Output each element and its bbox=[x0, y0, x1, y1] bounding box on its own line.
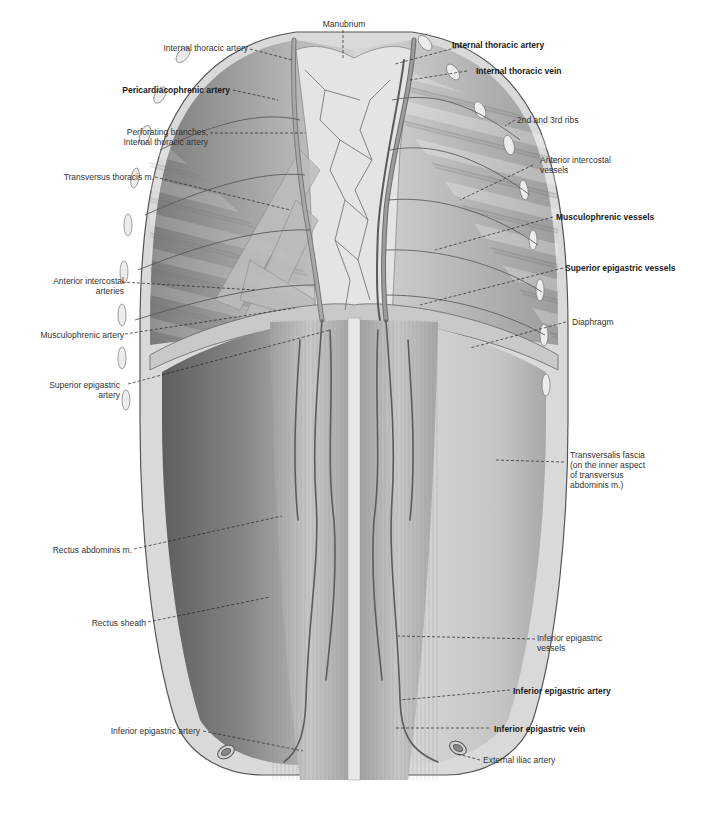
label-anterior-intercostal-arteries: Anterior intercostal arteries bbox=[20, 276, 124, 296]
label-perforating-branches: Perforating branches, Internal thoracic … bbox=[60, 127, 208, 147]
label-internal-thoracic-artery-left: Internal thoracic artery bbox=[100, 43, 248, 53]
label-superior-epigastric-artery: Superior epigastric artery bbox=[20, 380, 120, 400]
linea-alba bbox=[348, 318, 360, 780]
label-inferior-epigastric-artery-left: Inferior epigastric artery bbox=[60, 726, 200, 736]
label-manubrium: Manubrium bbox=[312, 19, 376, 29]
label-inferior-epigastric-artery-right: Inferior epigastric artery bbox=[513, 686, 611, 696]
label-musculophrenic-artery: Musculophrenic artery bbox=[10, 330, 124, 340]
label-anterior-intercostal-vessels: Anterior intercostal vessels bbox=[540, 155, 611, 175]
label-rectus-sheath: Rectus sheath bbox=[60, 618, 146, 628]
label-rectus-abdominis: Rectus abdominis m. bbox=[20, 545, 132, 555]
label-inferior-epigastric-vessels: Inferior epigastric vessels bbox=[537, 633, 602, 653]
label-superior-epigastric-vessels: Superior epigastric vessels bbox=[565, 263, 676, 273]
label-transversalis-fascia: Transversalis fascia (on the inner aspec… bbox=[570, 450, 645, 490]
label-pericardiacophrenic-artery: Pericardiacophrenic artery bbox=[60, 85, 230, 95]
label-diaphragm: Diaphragm bbox=[572, 317, 614, 327]
label-transversus-thoracis: Transversus thoracis m. bbox=[30, 172, 154, 182]
label-musculophrenic-vessels: Musculophrenic vessels bbox=[556, 212, 654, 222]
label-inferior-epigastric-vein: Inferior epigastric vein bbox=[494, 724, 585, 734]
label-external-iliac-artery: External iliac artery bbox=[483, 755, 555, 765]
label-2nd-3rd-ribs: 2nd and 3rd ribs bbox=[517, 115, 578, 125]
label-internal-thoracic-artery-right: Internal thoracic artery bbox=[452, 40, 544, 50]
label-internal-thoracic-vein: Internal thoracic vein bbox=[476, 66, 562, 76]
